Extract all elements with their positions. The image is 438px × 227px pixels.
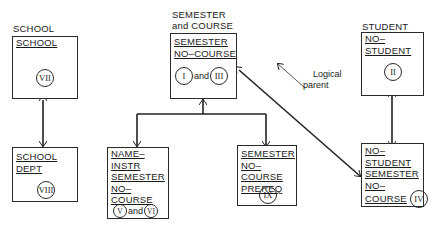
segment-box-student: NO– STUDENT II xyxy=(361,32,424,96)
segment-number-badge: VII xyxy=(36,69,54,87)
key-field: NO–COURSE xyxy=(171,48,236,60)
conjunction-text: and xyxy=(128,206,143,216)
key-field: STUDENT xyxy=(362,45,423,57)
segment-box-prereq: SEMESTER NO–COURSE PREREQ IX xyxy=(237,145,297,206)
key-field: STUDENT xyxy=(362,157,423,169)
database-hierarchy-diagram: SCHOOL SCHOOL VII SCHOOL DEPT VIII SEMES… xyxy=(0,0,438,227)
key-field: NO– xyxy=(108,183,168,195)
group-label-semester-line2: and COURSE xyxy=(172,20,233,31)
conjunction-text: and xyxy=(194,71,209,81)
segment-box-student-semester: NO– STUDENT SEMESTER NO– COURSE IV xyxy=(361,143,424,207)
key-field: NO– xyxy=(362,144,423,157)
segment-number-badge: V xyxy=(113,204,127,218)
group-label-student: STUDENT xyxy=(362,21,408,32)
key-field: NO– xyxy=(362,33,423,45)
key-field: SEMESTER xyxy=(171,34,236,48)
segment-box-name-instr: NAME– INSTR SEMESTER NO– COURSE V and VI xyxy=(107,147,169,219)
segment-box-semester-root: SEMESTER NO–COURSE I and III xyxy=(170,33,237,99)
segment-box-school-dept: SCHOOL DEPT VIII xyxy=(12,147,78,202)
segment-number-badge: VI xyxy=(144,204,158,218)
group-label-semester-line1: SEMESTER xyxy=(172,9,226,20)
segment-box-school: SCHOOL VII xyxy=(12,36,78,99)
key-field: INSTR xyxy=(108,160,168,172)
segment-number-badge: I xyxy=(175,67,193,85)
logical-parent-label-line2: parent xyxy=(303,80,329,91)
key-field: SCHOOL xyxy=(13,37,77,49)
segment-number-badge: IV xyxy=(410,190,428,208)
segment-number-badge: IX xyxy=(259,186,277,204)
key-field: SEMESTER xyxy=(362,168,423,180)
segment-number-badge: VIII xyxy=(37,181,55,199)
key-field: COURSE xyxy=(362,193,407,205)
key-field: SCHOOL xyxy=(13,148,77,163)
edge-semester-branches xyxy=(137,100,266,146)
key-field: DEPT xyxy=(13,163,77,175)
key-field: SEMESTER xyxy=(108,171,168,183)
segment-number-badge: III xyxy=(210,67,228,85)
logical-parent-label-line1: Logical xyxy=(313,69,342,80)
key-field: SEMESTER xyxy=(238,146,296,160)
segment-number-badge: II xyxy=(384,63,402,81)
key-field: NAME– xyxy=(108,148,168,160)
key-field: NO–COURSE xyxy=(238,160,296,183)
group-label-school: SCHOOL xyxy=(13,23,54,34)
